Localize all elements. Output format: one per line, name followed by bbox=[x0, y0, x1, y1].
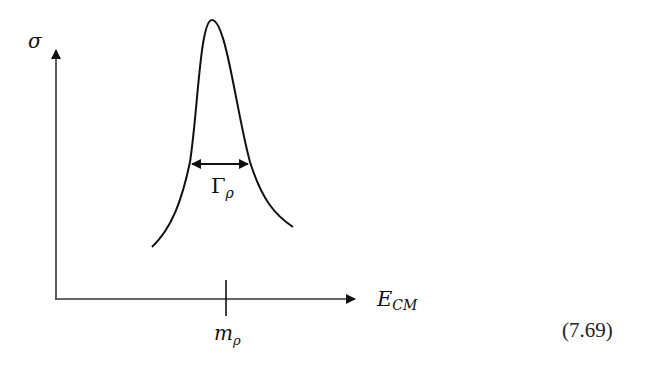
equation-number: (7.69) bbox=[562, 318, 613, 343]
resonance-curve bbox=[152, 20, 293, 247]
mass-label: mρ bbox=[214, 321, 241, 348]
width-label: Γρ bbox=[211, 174, 235, 201]
x-axis-label: ECM bbox=[376, 287, 418, 313]
y-axis-label: σ bbox=[28, 29, 43, 53]
resonance-diagram: σ ECM Γρ mρ bbox=[0, 0, 654, 370]
